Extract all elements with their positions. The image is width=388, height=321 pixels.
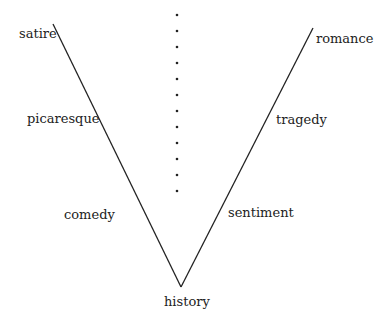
label-history: history (164, 295, 210, 308)
label-tragedy: tragedy (276, 113, 327, 126)
label-romance: romance (316, 32, 373, 45)
label-comedy: comedy (64, 208, 115, 221)
v-diagram: satire picaresque comedy romance tragedy… (0, 0, 388, 321)
label-picaresque: picaresque (27, 112, 99, 125)
label-satire: satire (19, 27, 57, 40)
dotted-center-line (176, 14, 179, 193)
label-sentiment: sentiment (228, 206, 294, 219)
right-arm-line (181, 28, 313, 287)
v-shape-lines (0, 0, 388, 321)
left-arm-line (53, 24, 181, 287)
